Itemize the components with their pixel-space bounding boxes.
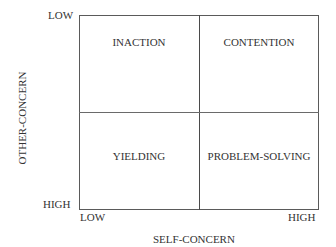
quadrant-yielding: YIELDING — [79, 150, 199, 162]
quadrant-problem-solving: PROBLEM-SOLVING — [199, 150, 319, 162]
quadrant-inaction: INACTION — [79, 36, 199, 48]
x-axis-label: SELF-CONCERN — [153, 233, 235, 245]
x-axis-left-tick: LOW — [80, 211, 105, 223]
y-axis-bottom-tick: HIGH — [43, 198, 71, 210]
x-axis-right-tick: HIGH — [288, 211, 316, 223]
quadrant-contention: CONTENTION — [199, 36, 319, 48]
horizontal-divider — [79, 112, 319, 113]
y-axis-label: OTHER-CONCERN — [16, 68, 28, 168]
y-axis-top-tick: LOW — [48, 9, 73, 21]
